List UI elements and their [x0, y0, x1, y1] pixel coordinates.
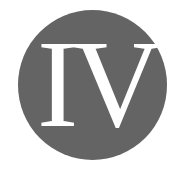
roman-numeral-label: IV	[0, 0, 189, 170]
